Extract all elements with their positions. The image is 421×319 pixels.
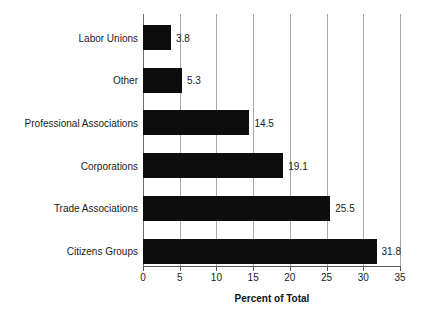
bar-row: 25.5 — [143, 196, 400, 221]
category-label-trade-associations: Trade Associations — [0, 203, 138, 214]
category-label-professional-associations: Professional Associations — [0, 117, 138, 128]
tick-label-15: 15 — [248, 272, 259, 283]
bar-row: 31.8 — [143, 239, 400, 264]
tick-mark-30 — [363, 266, 364, 271]
category-label-other: Other — [0, 75, 138, 86]
tick-mark-15 — [253, 266, 254, 271]
bar-value-label: 3.8 — [171, 32, 190, 43]
tick-mark-25 — [327, 266, 328, 271]
category-label-corporations: Corporations — [0, 160, 138, 171]
tick-label-10: 10 — [211, 272, 222, 283]
gridline-0 — [143, 14, 144, 266]
tick-label-30: 30 — [358, 272, 369, 283]
gridline-10 — [216, 14, 217, 266]
gridline-30 — [363, 14, 364, 266]
gridline-5 — [180, 14, 181, 266]
bar-value-label: 31.8 — [377, 246, 401, 257]
bar-value-label: 19.1 — [283, 160, 307, 171]
bar-value-label: 25.5 — [330, 203, 354, 214]
bar-corporations — [143, 153, 283, 178]
tick-mark-5 — [180, 266, 181, 271]
bar-labor-unions — [143, 25, 171, 50]
bar-trade-associations — [143, 196, 330, 221]
bar-row: 19.1 — [143, 153, 400, 178]
gridline-35 — [400, 14, 401, 266]
bar-other — [143, 68, 182, 93]
bar-professional-associations — [143, 110, 249, 135]
tick-label-35: 35 — [394, 272, 405, 283]
category-axis-labels: Labor UnionsOtherProfessional Associatio… — [0, 0, 138, 319]
bar-row: 14.5 — [143, 110, 400, 135]
tick-label-5: 5 — [177, 272, 183, 283]
tick-mark-35 — [400, 266, 401, 271]
gridline-15 — [253, 14, 254, 266]
chart-figure: Labor UnionsOtherProfessional Associatio… — [0, 0, 421, 319]
tick-label-0: 0 — [140, 272, 146, 283]
bar-row: 3.8 — [143, 25, 400, 50]
tick-label-20: 20 — [284, 272, 295, 283]
category-label-labor-unions: Labor Unions — [0, 32, 138, 43]
plot-area: 3.85.314.519.125.531.8 — [143, 14, 400, 266]
tick-mark-0 — [143, 266, 144, 271]
gridline-20 — [290, 14, 291, 266]
bar-value-label: 14.5 — [249, 117, 273, 128]
gridline-25 — [327, 14, 328, 266]
bar-citizens-groups — [143, 239, 377, 264]
x-axis-title: Percent of Total — [143, 293, 401, 304]
category-label-citizens-groups: Citizens Groups — [0, 246, 138, 257]
tick-label-25: 25 — [321, 272, 332, 283]
tick-mark-10 — [216, 266, 217, 271]
bar-value-label: 5.3 — [182, 75, 201, 86]
bar-row: 5.3 — [143, 68, 400, 93]
tick-mark-20 — [290, 266, 291, 271]
